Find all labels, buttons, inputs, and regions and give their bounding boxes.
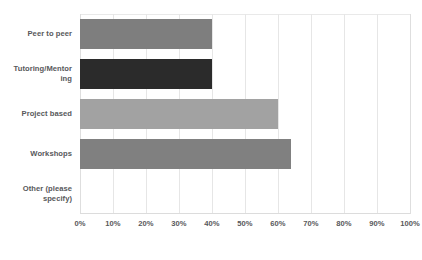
- category-axis-labels: Peer to peerTutoring/MentoringProject ba…: [0, 14, 76, 214]
- gridline-100pct: [410, 14, 411, 214]
- bar-series: [80, 14, 410, 214]
- category-label-line: Peer to peer: [0, 29, 72, 39]
- category-label: Project based: [0, 109, 72, 119]
- bar: [80, 19, 212, 49]
- category-label-line: ing: [0, 74, 72, 84]
- bar: [80, 139, 291, 169]
- category-label-line: Other (please: [0, 184, 72, 194]
- category-label: Tutoring/Mentoring: [0, 64, 72, 83]
- bar: [80, 59, 212, 89]
- plot-bottom-border: [80, 213, 410, 214]
- value-axis: 0%10%20%30%40%50%60%70%80%90%100%: [80, 216, 410, 234]
- bar-chart: Peer to peerTutoring/MentoringProject ba…: [0, 0, 422, 260]
- bar-row: [80, 59, 410, 89]
- category-label: Peer to peer: [0, 29, 72, 39]
- category-label-line: specify): [0, 194, 72, 204]
- category-label-line: Workshops: [0, 149, 72, 159]
- bar-row: [80, 179, 410, 209]
- category-label: Workshops: [0, 149, 72, 159]
- category-label-line: Tutoring/Mentor: [0, 64, 72, 74]
- bar-row: [80, 99, 410, 129]
- bar-row: [80, 19, 410, 49]
- bar-row: [80, 139, 410, 169]
- category-label-line: Project based: [0, 109, 72, 119]
- bar: [80, 99, 278, 129]
- plot-area: [80, 14, 410, 214]
- category-label: Other (pleasespecify): [0, 184, 72, 203]
- x-tick-label: 100%: [390, 219, 422, 229]
